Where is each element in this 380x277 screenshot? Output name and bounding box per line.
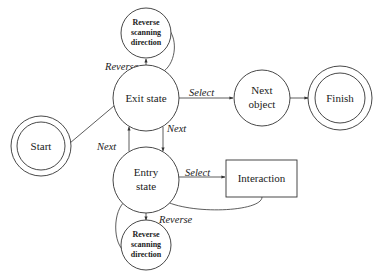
state-diagram: Reverse Select Next Next Select Reverse …: [0, 0, 380, 277]
node-reverse-bottom: Reverse scanning direction: [121, 220, 171, 270]
label-next-up: Next: [96, 141, 117, 152]
next-object-line1: Next: [251, 84, 272, 96]
next-object-line2: object: [249, 98, 276, 110]
reverse-bottom-line2: scanning: [131, 240, 161, 249]
edge-interaction-to-entry: [163, 197, 262, 210]
node-next-object: Next object: [234, 70, 290, 126]
exit-state-label: Exit state: [125, 92, 166, 104]
node-entry-state: Entry state: [113, 147, 179, 213]
reverse-bottom-line3: direction: [131, 250, 162, 259]
node-start: Start: [11, 116, 71, 176]
label-select-top: Select: [189, 87, 215, 98]
node-interaction: Interaction: [226, 160, 297, 197]
reverse-top-line1: Reverse: [132, 18, 160, 27]
label-select-bottom: Select: [185, 167, 211, 178]
reverse-bottom-line1: Reverse: [132, 230, 160, 239]
label-next-down: Next: [166, 123, 187, 134]
reverse-top-line3: direction: [131, 38, 162, 47]
label-reverse-bottom: Reverse: [158, 214, 193, 225]
interaction-label: Interaction: [238, 172, 286, 184]
finish-label: Finish: [326, 92, 354, 104]
entry-state-line2: state: [136, 180, 156, 192]
edge-start-to-exit: [70, 100, 121, 143]
entry-state-line1: Entry: [134, 166, 159, 178]
start-label: Start: [31, 140, 52, 152]
node-exit-state: Exit state: [113, 65, 179, 131]
node-reverse-top: Reverse scanning direction: [121, 8, 171, 58]
node-finish: Finish: [308, 66, 372, 130]
reverse-top-line2: scanning: [131, 28, 161, 37]
